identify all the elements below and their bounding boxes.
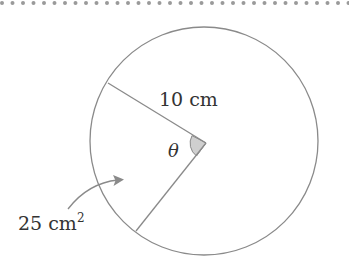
area-label-exponent: 2	[77, 211, 85, 225]
angle-label: θ	[168, 140, 179, 161]
area-label: 25 cm2	[18, 211, 85, 234]
circle	[90, 27, 318, 255]
sector-diagram: 10 cm θ 25 cm2	[0, 0, 349, 266]
arrow-shaft	[68, 180, 118, 209]
area-label-value: 25 cm	[18, 212, 77, 234]
radius-label: 10 cm	[159, 88, 218, 110]
